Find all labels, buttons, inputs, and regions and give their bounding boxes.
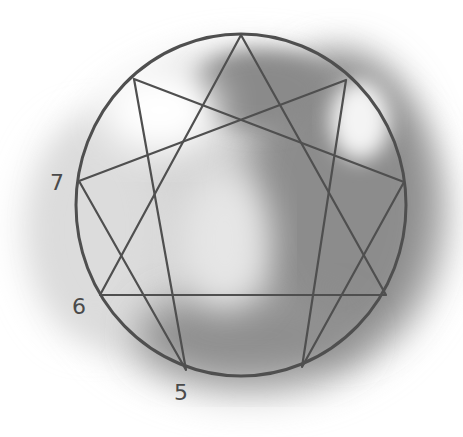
watercolor-wash [25, 50, 450, 400]
enneagram-diagram [0, 0, 463, 437]
wash-topleft-white [100, 65, 220, 155]
wash-center-light [180, 170, 270, 310]
point-label-5: 5 [174, 382, 188, 404]
point-label-7: 7 [50, 172, 64, 194]
point-label-6: 6 [72, 296, 86, 318]
